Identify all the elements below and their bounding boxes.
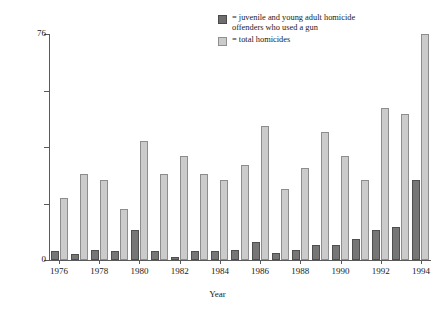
bar xyxy=(200,174,208,260)
bar xyxy=(211,251,219,260)
bar xyxy=(381,108,389,260)
x-axis-tick-label: 1984 xyxy=(203,266,237,276)
bar xyxy=(301,168,309,260)
x-axis-tick xyxy=(59,260,60,264)
bar xyxy=(261,126,269,260)
y-axis-tick xyxy=(44,91,49,92)
bar xyxy=(272,253,280,260)
x-axis-tick-label: 1994 xyxy=(404,266,435,276)
bar xyxy=(171,257,179,260)
bar xyxy=(231,250,239,260)
x-axis-tick xyxy=(260,260,261,264)
bar xyxy=(71,254,79,260)
bar xyxy=(60,198,68,260)
x-axis-tick xyxy=(220,260,221,264)
x-axis-line xyxy=(49,260,431,261)
homicides-bar-chart: = juvenile and young adult homicide offe… xyxy=(0,0,435,313)
bar xyxy=(111,251,119,260)
bar xyxy=(401,114,409,260)
bar xyxy=(100,180,108,260)
bar xyxy=(392,227,400,260)
y-axis-tick-label: 76 xyxy=(37,28,46,38)
bar xyxy=(151,251,159,260)
y-axis-tick xyxy=(44,204,49,205)
x-axis-tick-label: 1982 xyxy=(163,266,197,276)
x-axis-tick-label: 1986 xyxy=(243,266,277,276)
bar xyxy=(180,156,188,260)
x-axis-tick-label: 1976 xyxy=(42,266,76,276)
legend-swatch-dark-icon xyxy=(218,15,227,24)
bar xyxy=(321,132,329,260)
plot-area: 076 197619781980198219841986198819901992… xyxy=(49,34,431,260)
x-axis-tick xyxy=(139,260,140,264)
bar xyxy=(292,250,300,260)
bar xyxy=(51,251,59,260)
legend-item-juvenile-gun-offenders: = juvenile and young adult homicide offe… xyxy=(218,13,433,34)
bar xyxy=(241,165,249,260)
bar xyxy=(140,141,148,260)
bar xyxy=(312,245,320,260)
bar xyxy=(120,209,128,260)
x-axis-tick-label: 1990 xyxy=(324,266,358,276)
bar xyxy=(352,239,360,260)
bar xyxy=(191,251,199,260)
bar xyxy=(332,245,340,260)
x-axis-tick xyxy=(381,260,382,264)
bar xyxy=(281,189,289,260)
x-axis-tick xyxy=(300,260,301,264)
x-axis-tick xyxy=(180,260,181,264)
x-axis-tick-label: 1978 xyxy=(82,266,116,276)
bar xyxy=(91,250,99,260)
bar xyxy=(252,242,260,260)
x-axis-tick xyxy=(99,260,100,264)
bar xyxy=(372,230,380,260)
bar xyxy=(160,174,168,260)
x-axis-tick-label: 1988 xyxy=(283,266,317,276)
bar xyxy=(341,156,349,260)
x-axis-tick-label: 1992 xyxy=(364,266,398,276)
x-axis-tick xyxy=(421,260,422,264)
bar xyxy=(421,34,429,260)
bar xyxy=(220,180,228,260)
bar xyxy=(412,180,420,260)
x-axis-tick-label: 1980 xyxy=(122,266,156,276)
legend-label-juvenile-gun-offenders: = juvenile and young adult homicide offe… xyxy=(232,13,355,34)
y-axis-tick xyxy=(44,147,49,148)
bar xyxy=(131,230,139,260)
y-axis-line xyxy=(49,34,50,260)
bar xyxy=(361,180,369,260)
bar xyxy=(80,174,88,260)
x-axis-tick xyxy=(341,260,342,264)
y-axis-tick-label: 0 xyxy=(42,254,47,264)
x-axis-title: Year xyxy=(0,289,435,299)
